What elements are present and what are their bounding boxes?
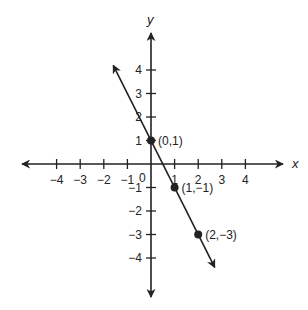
y-axis-label: y [146, 12, 155, 27]
x-tick-label: −4 [50, 173, 64, 187]
data-points: (0,1)(1,−1)(2,−3) [147, 134, 237, 242]
y-tick-label: 4 [135, 63, 142, 77]
data-point [171, 184, 179, 192]
coordinate-plane: x y −4−3−2−11234 4321−1−2−3−4 0 (0,1)(1,… [0, 0, 308, 310]
data-point [194, 231, 202, 239]
origin-label: 0 [139, 171, 146, 185]
x-tick-label: 4 [242, 173, 249, 187]
data-point [147, 137, 155, 145]
x-tick-label: −2 [97, 173, 111, 187]
data-point-label: (1,−1) [182, 181, 214, 195]
y-tick-label: 1 [135, 134, 142, 148]
x-tick-label: 3 [218, 173, 225, 187]
x-axis-label: x [291, 156, 299, 171]
x-tick-label: −3 [73, 173, 87, 187]
y-tick-label: −2 [128, 204, 142, 218]
data-point-label: (0,1) [158, 134, 183, 148]
y-tick-label: −3 [128, 228, 142, 242]
y-tick-label: −4 [128, 251, 142, 265]
y-tick-label: 3 [135, 87, 142, 101]
data-point-label: (2,−3) [205, 228, 237, 242]
